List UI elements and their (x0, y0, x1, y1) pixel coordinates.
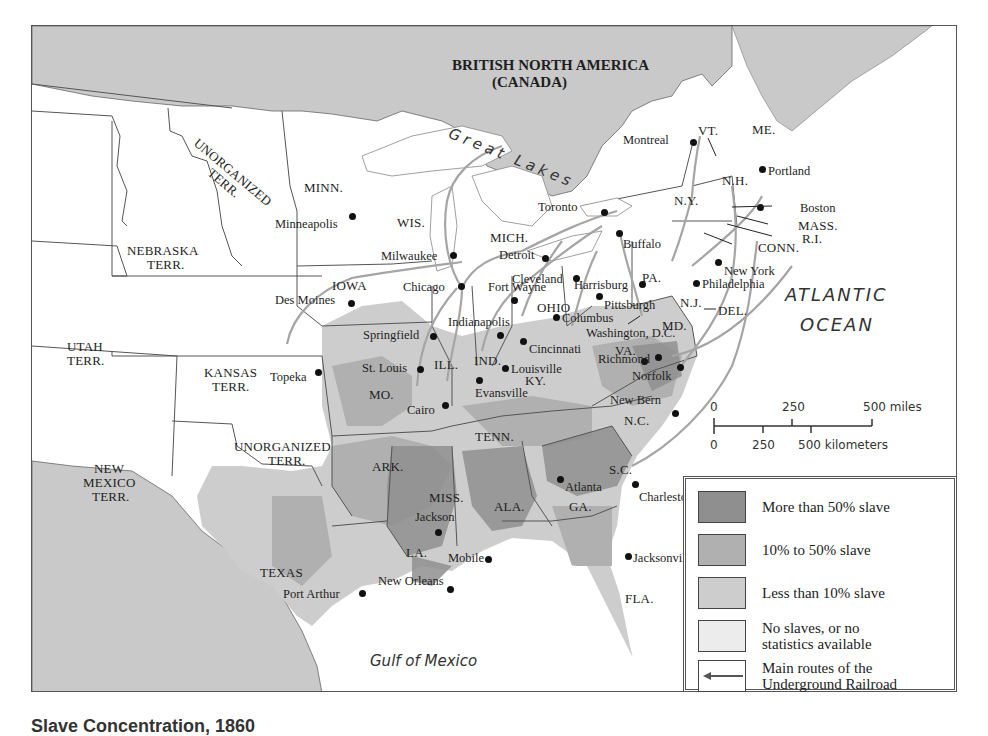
city-label: Port Arthur (283, 587, 340, 601)
city-dot-icon (458, 283, 465, 290)
city-label: Boston (800, 201, 835, 215)
city-label: St. Louis (362, 361, 407, 375)
city-dot-icon (690, 139, 697, 146)
city-label: Buffalo (623, 237, 661, 251)
city-label: Fort Wayne (488, 280, 546, 294)
legend-swatch-high (698, 491, 746, 523)
city-label: Louisville (511, 362, 562, 376)
region-label-tenn: TENN. (475, 430, 514, 444)
city-dot-icon (677, 364, 684, 371)
region-label-fla: FLA. (625, 592, 654, 606)
region-label-utah: UTAH (67, 340, 103, 354)
city-dot-icon (759, 166, 766, 173)
city-dot-icon (596, 293, 603, 300)
arrow-left-icon (699, 661, 745, 691)
scale-km-500: 500 kilometers (798, 438, 888, 452)
city-label: Topeka (270, 370, 307, 384)
city-dot-icon (349, 213, 356, 220)
scale-km-0: 0 (710, 438, 718, 452)
scale-miles-0: 0 (710, 400, 718, 414)
city-dot-icon (476, 377, 483, 384)
atlantic-ocean-label-1: ATLANTIC (785, 288, 888, 302)
scale-bar-ruler (710, 416, 950, 436)
scale-miles-500: 500 miles (863, 400, 922, 414)
city-dot-icon (557, 476, 564, 483)
city-dot-icon (625, 553, 632, 560)
legend-item-none: No slaves, or nostatistics available (698, 620, 872, 652)
city-label: Pittsburgh (604, 298, 655, 312)
legend-label-high: More than 50% slave (762, 499, 890, 515)
city-dot-icon (616, 230, 623, 237)
legend-item-route: Main routes of theUnderground Railroad (698, 660, 897, 692)
city-label: Harrisburg (574, 278, 628, 292)
region-label-ark: ARK. (372, 460, 404, 474)
city-label: Jackson (415, 510, 455, 524)
city-label: Philadelphia (702, 277, 765, 291)
gulf-of-mexico-label: Gulf of Mexico (370, 654, 477, 668)
region-label-new-mexico: NEW (94, 462, 124, 476)
city-dot-icon (511, 297, 518, 304)
region-label-kansas: KANSAS (204, 366, 257, 380)
city-label: Atlanta (565, 480, 602, 494)
region-label-conn: CONN. (758, 241, 799, 255)
city-dot-icon (715, 259, 722, 266)
map-legend: More than 50% slave 10% to 50% slave Les… (683, 476, 957, 692)
region-label-nh: N.H. (722, 174, 748, 188)
legend-item-mid: 10% to 50% slave (698, 534, 871, 566)
city-label: Des Moines (275, 293, 335, 307)
city-dot-icon (485, 556, 492, 563)
city-label: Cincinnati (529, 342, 581, 356)
country-label-canada-sub: (CANADA) (492, 75, 567, 89)
city-label: New Bern (610, 393, 661, 407)
region-label-ri: R.I. (802, 232, 822, 246)
legend-swatch-none (698, 620, 746, 652)
legend-item-high: More than 50% slave (698, 491, 890, 523)
city-dot-icon (672, 410, 679, 417)
city-dot-icon (655, 354, 662, 361)
region-label-ind: IND. (474, 354, 501, 368)
scale-miles-250: 250 (782, 400, 805, 414)
country-label-canada: BRITISH NORTH AMERICA (452, 58, 649, 72)
city-label: Norfolk (632, 369, 672, 383)
scale-km-250: 250 (752, 438, 775, 452)
region-label-ky: KY. (525, 374, 546, 388)
region-label-nc: N.C. (624, 414, 649, 428)
city-label: Springfield (363, 328, 419, 342)
region-label-iowa: IOWA (332, 279, 367, 293)
city-dot-icon (632, 481, 639, 488)
region-label-mo: MO. (369, 388, 394, 402)
legend-label-none: No slaves, or nostatistics available (762, 620, 872, 652)
region-label-nj: N.J. (680, 296, 702, 310)
region-label-ill: ILL. (434, 358, 458, 372)
city-dot-icon (359, 590, 366, 597)
legend-label-low: Less than 10% slave (762, 585, 885, 601)
atlantic-ocean-label-2: OCEAN (800, 318, 874, 332)
city-label: Evansville (475, 386, 528, 400)
region-label-ny: N.Y. (674, 194, 698, 208)
city-label: Richmond (598, 352, 650, 366)
map-caption: Slave Concentration, 1860 (31, 716, 255, 736)
city-dot-icon (757, 204, 764, 211)
region-label-utah2: TERR. (67, 354, 104, 368)
legend-item-low: Less than 10% slave (698, 577, 885, 609)
city-label: New Orleans (378, 574, 444, 588)
legend-label-route: Main routes of theUnderground Railroad (762, 660, 897, 692)
region-label-mich: MICH. (490, 231, 528, 245)
region-label-texas: TEXAS (260, 566, 303, 580)
city-label: Minneapolis (275, 217, 338, 231)
legend-label-mid: 10% to 50% slave (762, 542, 871, 558)
city-label: Washington, D.C. (586, 326, 675, 340)
legend-swatch-low (698, 577, 746, 609)
city-label: Toronto (538, 200, 577, 214)
city-label: Cairo (407, 403, 435, 417)
city-dot-icon (435, 529, 442, 536)
legend-swatch-route (698, 660, 746, 692)
city-label: Milwaukee (381, 249, 437, 263)
region-label-unorg-s2: TERR. (268, 454, 305, 468)
region-label-vt: VT. (698, 124, 718, 138)
city-label: Mobile (448, 551, 484, 565)
city-label: Columbus (562, 311, 613, 325)
region-label-sc: S.C. (609, 463, 632, 477)
city-label: Montreal (623, 133, 669, 147)
region-label-wis: WIS. (397, 216, 425, 230)
